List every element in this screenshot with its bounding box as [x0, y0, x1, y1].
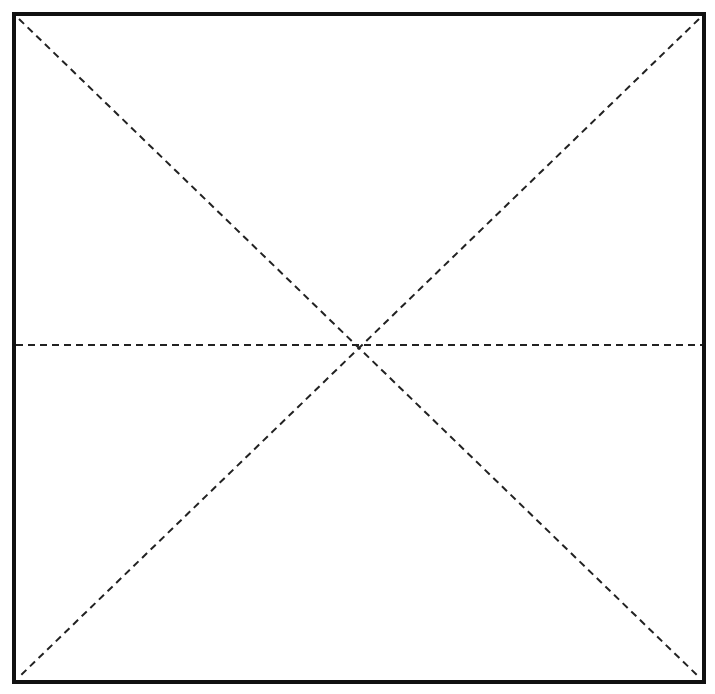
crease-pattern-diagram — [0, 0, 715, 694]
